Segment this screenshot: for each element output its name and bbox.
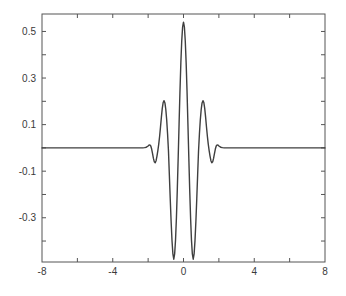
wavelet-curve	[42, 22, 325, 259]
figure-page: -8-40480.50.30.1-0.1-0.3	[0, 0, 346, 296]
y-tick-label: 0.3	[22, 73, 36, 84]
x-tick-label: 4	[251, 266, 257, 277]
x-tick-label: 0	[181, 266, 187, 277]
y-tick-label: 0.1	[22, 119, 36, 130]
y-tick-label: -0.1	[19, 166, 37, 177]
y-tick-label: -0.3	[19, 212, 37, 223]
x-tick-label: 8	[322, 266, 328, 277]
x-tick-label: -8	[38, 266, 47, 277]
wavelet-plot: -8-40480.50.30.1-0.1-0.3	[0, 0, 346, 296]
y-tick-label: 0.5	[22, 26, 36, 37]
x-tick-label: -4	[108, 266, 117, 277]
plot-frame	[42, 14, 325, 262]
